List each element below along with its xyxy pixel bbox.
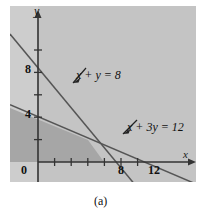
y-axis-label: y (34, 4, 39, 19)
x-tick-label-12: 12 (148, 163, 160, 178)
plot-svg (10, 6, 196, 182)
figure-caption: (a) (94, 194, 107, 209)
origin-label: 0 (21, 163, 27, 178)
y-tick-label-4: 4 (25, 107, 31, 122)
line-label-x-plus-y: x + y = 8 (76, 68, 121, 83)
x-axis-label: x (183, 148, 188, 160)
x-tick-label-8: 8 (118, 163, 124, 178)
figure-panel (10, 6, 196, 182)
line-label-x-plus-3y: x + 3y = 12 (127, 120, 184, 135)
y-tick-label-8: 8 (25, 62, 31, 77)
figure-container: y x 0 8 4 8 12 x + y = 8 x + 3y = 12 (a) (0, 0, 210, 216)
